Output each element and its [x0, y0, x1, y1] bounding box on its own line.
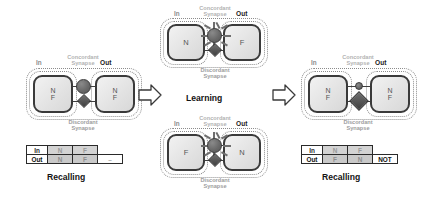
node-in-state-0: N: [183, 39, 188, 47]
concordant-synapse-icon[interactable]: [355, 82, 363, 90]
node-in-state-0: N: [50, 87, 55, 94]
spike-icon: [223, 145, 231, 147]
unit-learning-top: N F: [160, 18, 268, 68]
label-concordant-line2: Synapse: [335, 60, 381, 66]
node-in[interactable]: F: [167, 134, 205, 171]
cell: F: [73, 155, 98, 164]
node-out-state-0: N: [387, 87, 392, 94]
row-header: Out: [302, 155, 323, 164]
unit-learning-bottom: F N: [160, 128, 268, 178]
node-in-state-0: F: [184, 149, 189, 157]
cell: N: [348, 155, 373, 164]
label-discordant-line2: Synapse: [333, 125, 383, 131]
stage-label-recalling-left: Recalling: [47, 172, 85, 182]
cell: F: [73, 146, 98, 155]
label-concordant-synapse: Concordant Synapse: [60, 54, 106, 67]
node-in[interactable]: N: [167, 24, 205, 61]
cell: N: [48, 155, 73, 164]
arrow-learning-to-right: [272, 84, 296, 106]
node-in[interactable]: N F: [308, 75, 348, 113]
arrow-left-to-learning: [138, 84, 162, 106]
table-row: Out F N NOT: [302, 155, 398, 164]
recalling-table-not: In N F Out F N NOT: [301, 145, 398, 164]
stage-label-learning: Learning: [186, 93, 222, 103]
label-concordant-synapse: Concordant Synapse: [335, 54, 381, 67]
node-out-state-0: F: [240, 39, 245, 47]
table-row: In N F: [27, 146, 123, 155]
unit-learned-state: N F N F: [301, 68, 417, 120]
row-header: In: [302, 146, 323, 155]
node-out-state-0: N: [239, 149, 244, 157]
row-header: In: [27, 146, 48, 155]
table-row: In N F: [302, 146, 398, 155]
node-in-state-1: F: [51, 94, 55, 101]
node-in-state-1: F: [326, 94, 330, 101]
cell-note: NOT: [373, 155, 398, 164]
table-row: Out N F –: [27, 155, 123, 164]
label-in: In: [174, 120, 180, 127]
label-discordant-synapse: Discordant Synapse: [58, 119, 108, 132]
unit-initial-state: N F N F: [26, 68, 142, 120]
label-discordant-line2: Synapse: [190, 183, 240, 189]
node-in-state-0: N: [325, 87, 330, 94]
cell: F: [323, 155, 348, 164]
label-discordant-line2: Synapse: [58, 125, 108, 131]
cell: F: [348, 146, 373, 155]
label-concordant-synapse: Concordant Synapse: [192, 5, 238, 18]
cell: N: [48, 146, 73, 155]
node-out-state-1: F: [113, 94, 117, 101]
label-in: In: [311, 59, 317, 66]
node-in[interactable]: N F: [33, 75, 73, 113]
label-in: In: [36, 59, 42, 66]
label-in: In: [174, 10, 180, 17]
node-out-state-1: F: [388, 94, 392, 101]
cell-empty: [373, 146, 398, 155]
spike-icon: [223, 35, 231, 37]
recalling-table-identity: In N F Out N F –: [26, 145, 123, 164]
cell-note: –: [98, 155, 123, 164]
node-out[interactable]: N F: [95, 75, 135, 113]
label-discordant-synapse: Discordant Synapse: [333, 119, 383, 132]
cell: N: [323, 146, 348, 155]
label-discordant-synapse: Discordant Synapse: [190, 67, 240, 80]
cell-empty: [98, 146, 123, 155]
node-out[interactable]: N F: [370, 75, 410, 113]
label-discordant-line2: Synapse: [190, 73, 240, 79]
label-concordant-line2: Synapse: [192, 11, 238, 17]
concordant-synapse-icon[interactable]: [207, 28, 222, 43]
label-concordant-line2: Synapse: [192, 121, 238, 127]
node-out-state-0: N: [112, 87, 117, 94]
node-out[interactable]: N: [223, 134, 261, 171]
node-out[interactable]: F: [223, 24, 261, 61]
row-header: Out: [27, 155, 48, 164]
concordant-synapse-icon[interactable]: [76, 79, 91, 94]
concordant-synapse-icon[interactable]: [207, 138, 222, 153]
label-discordant-synapse: Discordant Synapse: [190, 177, 240, 190]
label-concordant-synapse: Concordant Synapse: [192, 115, 238, 128]
label-concordant-line2: Synapse: [60, 60, 106, 66]
figure-canvas: N F N F In Out Concordant Synapse Discor…: [0, 0, 423, 200]
stage-label-recalling-right: Recalling: [322, 172, 360, 182]
